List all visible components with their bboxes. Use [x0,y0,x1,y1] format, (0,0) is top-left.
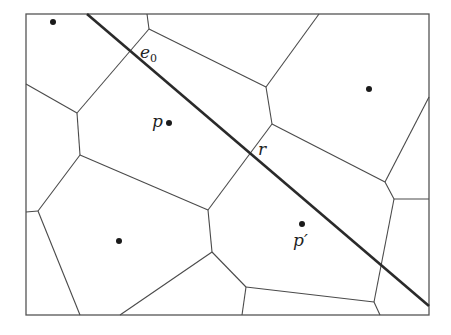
voronoi-edge [77,29,149,113]
site-bottom-left [116,238,122,244]
voronoi-edge [120,252,212,315]
label-e0: e [140,42,150,62]
voronoi-edge [149,29,266,87]
site-top-left [50,19,56,25]
voronoi-edge [385,182,394,199]
voronoi-edge [385,97,429,182]
voronoi-edge [212,252,246,287]
label-p-prime: p′ [293,230,308,250]
voronoi-edge [242,287,246,315]
voronoi-edge [374,199,394,302]
voronoi-edge [147,14,149,29]
voronoi-edges [26,14,429,315]
site-right [366,86,372,92]
voronoi-edge [208,210,212,252]
voronoi-sites [50,19,372,244]
voronoi-edge [80,155,208,210]
voronoi-edge [272,124,385,182]
voronoi-edge [38,155,80,211]
query-line [87,14,429,306]
voronoi-edge [77,113,80,155]
label-e0-subscript: 0 [150,52,157,65]
voronoi-edge [246,287,374,302]
voronoi-edge [208,124,272,210]
voronoi-edge [38,211,80,315]
bounding-frame [26,14,429,315]
site-p-prime [299,221,305,227]
voronoi-edge [266,87,272,124]
voronoi-edge [266,14,319,87]
site-p [166,120,172,126]
voronoi-edge [374,302,380,315]
voronoi-diagram: e 0 p r p′ [0,0,451,335]
label-r: r [258,139,267,159]
label-p: p [152,111,163,131]
voronoi-edge [26,211,38,212]
voronoi-edge [26,84,77,113]
